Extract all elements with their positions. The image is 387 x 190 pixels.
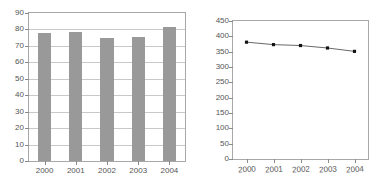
bar-chart-y-tick-label: 0: [20, 157, 24, 165]
bar-chart-bar: [38, 33, 51, 161]
line-chart-x-tick: [328, 159, 329, 163]
bar-chart-x-tick-label: 2004: [160, 167, 178, 175]
bar-chart-y-tick: [25, 95, 29, 96]
line-chart-marker: [245, 41, 248, 44]
line-chart-x-tick-label: 2001: [264, 165, 282, 174]
line-chart-x-tick: [355, 159, 356, 163]
line-chart-y-tick-label: 150: [216, 109, 229, 117]
bar-chart-x-tick: [76, 161, 77, 165]
bar-chart-x-tick: [169, 161, 170, 165]
line-chart-y-tick-label: 100: [216, 124, 229, 132]
bar-chart-y-tick-label: 50: [15, 75, 24, 83]
line-chart-plot-area: 050100150200250300350400450 200020012002…: [232, 20, 369, 160]
bar-chart-x-tick-label: 2002: [98, 167, 116, 175]
bar-chart-y-tick-label: 90: [15, 9, 24, 17]
bar-chart-y-tick-label: 80: [15, 25, 24, 33]
bar-chart-y-tick: [25, 161, 29, 162]
line-chart-y-tick-label: 50: [220, 140, 229, 148]
line-chart-x-tick-label: 2003: [318, 165, 336, 174]
bar-chart-bar: [132, 37, 145, 161]
line-chart-marker: [299, 44, 302, 47]
line-chart-y-tick-label: 450: [216, 17, 229, 25]
bar-chart-y-tick: [25, 145, 29, 146]
line-chart-x-tick-label: 2004: [345, 165, 363, 174]
bar-chart-x-tick: [138, 161, 139, 165]
bar-chart-y-tick-label: 30: [15, 108, 24, 116]
bar-chart-y-tick-label: 20: [15, 124, 24, 132]
line-chart-x-tick: [247, 159, 248, 163]
line-chart-marker: [272, 43, 275, 46]
bar-chart-y-tick: [25, 79, 29, 80]
bar-chart-bar: [100, 38, 113, 161]
bar-chart-y-tick: [25, 13, 29, 14]
bar-chart-y-tick: [25, 112, 29, 113]
line-chart-y-tick-label: 400: [216, 32, 229, 40]
bar-chart-y-tick-label: 70: [15, 42, 24, 50]
line-chart-series: [233, 21, 368, 159]
bar-chart-panel: 0102030405060708090 20002001200220032004: [0, 0, 194, 190]
bar-chart-x-tick-label: 2000: [36, 167, 54, 175]
bar-chart-x-tick: [107, 161, 108, 165]
bar-chart-y-tick-label: 60: [15, 58, 24, 66]
line-chart-y-tick-label: 0: [225, 155, 229, 163]
line-chart-y-tick-label: 300: [216, 63, 229, 71]
bar-chart-y-tick: [25, 46, 29, 47]
bar-chart-gridline: [29, 29, 185, 30]
bar-chart-plot-area: 0102030405060708090 20002001200220032004: [28, 12, 186, 162]
two-chart-figure: 0102030405060708090 20002001200220032004…: [0, 0, 387, 190]
bar-chart-y-tick: [25, 128, 29, 129]
line-chart-y-tick-label: 250: [216, 78, 229, 86]
bar-chart-y-tick-label: 10: [15, 141, 24, 149]
line-chart-x-tick: [301, 159, 302, 163]
line-chart-x-tick-label: 2000: [237, 165, 255, 174]
line-chart-marker: [326, 46, 329, 49]
line-chart-y-tick-label: 350: [216, 48, 229, 56]
bar-chart-bar: [163, 27, 176, 161]
line-chart-y-tick: [229, 159, 233, 160]
bar-chart-x-tick-label: 2003: [129, 167, 147, 175]
line-chart-x-tick-label: 2002: [291, 165, 309, 174]
bar-chart-bar: [69, 32, 82, 161]
bar-chart-x-tick: [45, 161, 46, 165]
line-chart-y-tick-label: 200: [216, 94, 229, 102]
bar-chart-y-tick: [25, 29, 29, 30]
line-chart-panel: 050100150200250300350400450 200020012002…: [194, 0, 387, 190]
bar-chart-x-tick-label: 2001: [67, 167, 85, 175]
line-chart-marker: [353, 50, 356, 53]
line-chart-x-tick: [274, 159, 275, 163]
bar-chart-y-tick: [25, 62, 29, 63]
bar-chart-y-tick-label: 40: [15, 91, 24, 99]
